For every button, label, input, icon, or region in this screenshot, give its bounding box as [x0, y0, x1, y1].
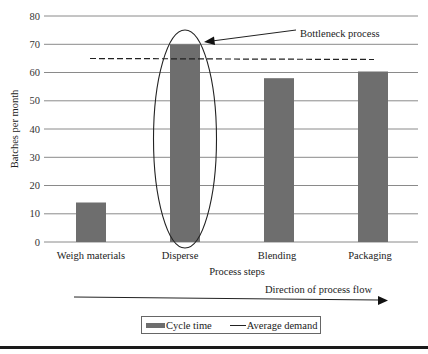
bar-chart: 0 10 20 30 40 50 60 70 80 Batches per mo…	[0, 0, 428, 354]
y-axis-ticks: 0 10 20 30 40 50 60 70 80	[30, 11, 41, 248]
bar-blending	[264, 78, 294, 242]
legend: Cycle time Average demand	[141, 316, 321, 334]
y-tick: 50	[30, 95, 41, 106]
bars	[76, 44, 388, 242]
y-tick: 10	[30, 208, 41, 219]
flow-label: Direction of process flow	[265, 284, 372, 295]
average-demand-line	[90, 59, 374, 60]
x-axis-label: Process steps	[209, 266, 265, 277]
bar-disperse	[170, 44, 200, 242]
line-swatch-icon	[230, 325, 246, 326]
legend-label: Cycle time	[166, 320, 212, 331]
y-tick: 30	[30, 152, 41, 163]
x-tick: Blending	[258, 250, 297, 261]
x-axis-categories: Weigh materials Disperse Blending Packag…	[57, 250, 393, 261]
x-tick: Disperse	[162, 250, 199, 261]
legend-item-cycle-time: Cycle time	[146, 320, 212, 331]
legend-item-average-demand: Average demand	[216, 320, 318, 331]
x-tick: Packaging	[348, 250, 392, 261]
bottleneck-arrow	[212, 30, 296, 41]
bar-packaging	[358, 72, 388, 243]
y-tick: 0	[35, 237, 40, 248]
bar-swatch-icon	[146, 323, 165, 328]
bottleneck-label: Bottleneck process	[300, 28, 380, 39]
y-axis-label: Batches per month	[9, 89, 20, 168]
y-tick: 80	[30, 11, 41, 22]
arrowhead-icon	[204, 37, 215, 46]
x-tick: Weigh materials	[57, 250, 125, 261]
bar-weigh-materials	[76, 203, 106, 243]
y-tick: 60	[30, 67, 41, 78]
y-tick: 40	[30, 124, 41, 135]
arrowhead-icon	[378, 296, 388, 305]
bottom-rule	[0, 346, 428, 349]
y-tick: 70	[30, 39, 41, 50]
y-tick: 20	[30, 180, 41, 191]
legend-label: Average demand	[247, 320, 318, 331]
process-flow-arrow	[74, 297, 378, 300]
